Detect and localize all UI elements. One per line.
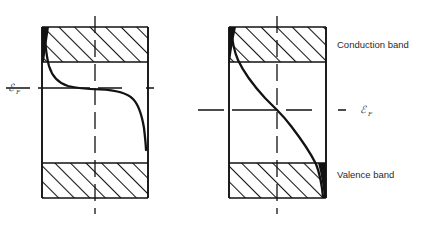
right-fermi-subscript: F (367, 110, 373, 118)
conduction-band-label: Conduction band (337, 39, 409, 50)
right-valence-band-hatch (229, 163, 326, 198)
figure-root: ℰ F (0, 0, 423, 228)
band-diagram-figure: ℰ F (0, 0, 423, 228)
valence-band-label: Valence band (337, 169, 394, 180)
left-valence-band-hatch (42, 163, 148, 198)
right-conduction-band-hatch (229, 27, 326, 62)
left-fermi-subscript: F (15, 88, 21, 96)
right-fermi-symbol: ℰ (360, 104, 367, 115)
left-conduction-band-hatch (42, 27, 148, 62)
left-fermi-symbol: ℰ (8, 82, 15, 93)
